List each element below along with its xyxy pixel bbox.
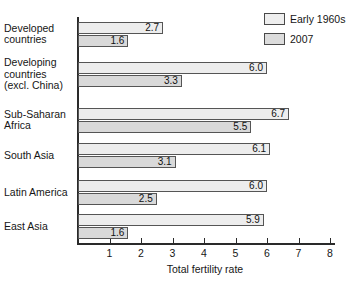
bar-0: 2.7 bbox=[78, 22, 163, 34]
bar-value-label: 6.0 bbox=[249, 63, 263, 73]
x-axis-tick-label: 6 bbox=[257, 247, 277, 259]
bar-value-label: 2.7 bbox=[145, 23, 159, 33]
fertility-rate-bar-chart: Early 1960s 2007 Developed countriesDeve… bbox=[0, 0, 352, 285]
x-axis-tick bbox=[267, 238, 268, 244]
x-axis-tick bbox=[173, 238, 174, 244]
bar-0: 6.0 bbox=[78, 62, 267, 74]
x-axis-tick-label: 2 bbox=[131, 247, 151, 259]
x-axis-tick-label: 3 bbox=[163, 247, 183, 259]
plot-area: 12345678 2.71.66.03.36.75.56.13.16.02.55… bbox=[0, 0, 352, 285]
x-axis-tick-label: 7 bbox=[289, 247, 309, 259]
x-axis-tick-label: 1 bbox=[100, 247, 120, 259]
bar-0: 6.1 bbox=[78, 143, 270, 155]
bar-value-label: 3.3 bbox=[164, 76, 178, 86]
x-axis-tick bbox=[141, 238, 142, 244]
bar-value-label: 5.9 bbox=[246, 215, 260, 225]
bar-0: 6.0 bbox=[78, 180, 267, 192]
x-axis-tick bbox=[330, 238, 331, 244]
bar-0: 6.7 bbox=[78, 108, 289, 120]
x-axis-tick bbox=[236, 238, 237, 244]
bar-1: 2.5 bbox=[78, 193, 157, 205]
bar-value-label: 6.0 bbox=[249, 181, 263, 191]
x-axis-tick-label: 8 bbox=[320, 247, 340, 259]
x-axis-line bbox=[77, 243, 335, 245]
x-axis-tick-label: 5 bbox=[226, 247, 246, 259]
bar-1: 1.6 bbox=[78, 227, 128, 239]
x-axis-title: Total fertility rate bbox=[78, 263, 332, 275]
bar-value-label: 1.6 bbox=[110, 36, 124, 46]
bar-1: 3.1 bbox=[78, 156, 176, 168]
bar-value-label: 5.5 bbox=[233, 122, 247, 132]
x-axis-tick-label: 4 bbox=[194, 247, 214, 259]
x-axis-tick bbox=[299, 238, 300, 244]
bar-value-label: 3.1 bbox=[158, 157, 172, 167]
bar-1: 3.3 bbox=[78, 75, 182, 87]
x-axis-tick bbox=[204, 238, 205, 244]
bar-0: 5.9 bbox=[78, 214, 264, 226]
bar-value-label: 2.5 bbox=[139, 194, 153, 204]
bar-value-label: 6.1 bbox=[252, 144, 266, 154]
bar-value-label: 6.7 bbox=[271, 109, 285, 119]
bar-1: 5.5 bbox=[78, 121, 251, 133]
bar-value-label: 1.6 bbox=[110, 228, 124, 238]
bar-1: 1.6 bbox=[78, 35, 128, 47]
